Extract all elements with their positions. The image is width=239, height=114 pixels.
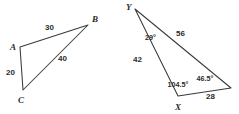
side-length-x-to-right-vertex: 28	[206, 92, 215, 101]
triangle-abc-outline	[20, 25, 88, 90]
side-length-cb: 40	[58, 54, 67, 63]
side-length-ac: 20	[6, 68, 15, 77]
vertex-label-a: A	[9, 42, 16, 52]
vertex-label-c: C	[18, 95, 25, 105]
side-length-yx: 42	[133, 55, 142, 64]
triangle-abc: A B C 30 20 40	[6, 14, 98, 105]
angle-measure-y: 29°	[145, 33, 156, 42]
vertex-label-x: X	[174, 102, 182, 112]
vertex-label-y: Y	[126, 2, 133, 12]
triangle-xyz: Y X 56 42 28 29° 104.5° 46.5°	[126, 2, 231, 112]
angle-measure-right-vertex: 46.5°	[197, 74, 214, 83]
side-length-ab: 30	[45, 23, 54, 32]
vertex-label-b: B	[91, 14, 98, 24]
angle-measure-x: 104.5°	[168, 80, 189, 89]
geometry-figure-canvas: A B C 30 20 40 Y X 56 42 28 29° 104.5° 4…	[0, 0, 239, 114]
geometry-diagram: A B C 30 20 40 Y X 56 42 28 29° 104.5° 4…	[0, 0, 239, 114]
side-length-y-to-right-vertex: 56	[176, 29, 185, 38]
